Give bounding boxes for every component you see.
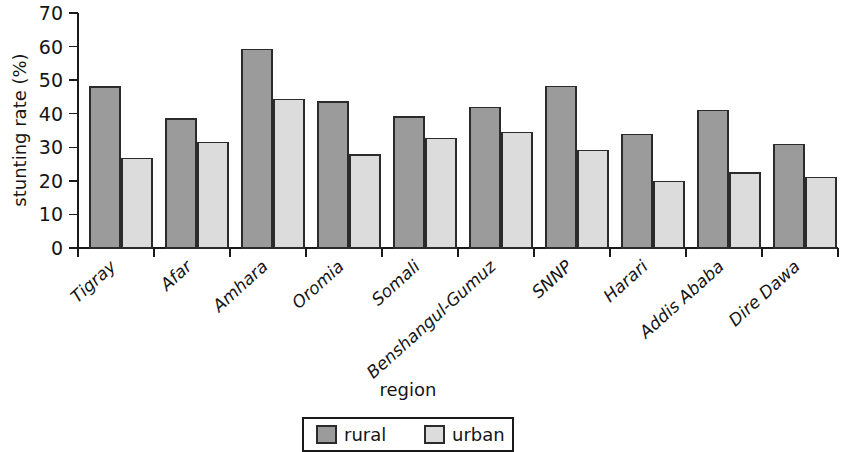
x-axis-title: region [380,379,437,400]
bars-group [90,49,836,248]
legend-swatch-urban [425,426,444,443]
bar-rural-benshangul-gumuz [470,108,500,248]
y-tick-group: 010203040506070 [39,2,78,259]
x-category-label: Amhara [208,256,272,316]
bar-urban-dire-dawa [806,178,836,249]
category-label-group: TigrayAfarAmharaOromiaSomaliBenshangul-G… [67,255,804,382]
x-category-label: Benshangul-Gumuz [363,255,501,382]
x-category-label: Tigray [67,255,121,306]
y-tick-label: 20 [39,170,63,192]
bar-rural-somali [394,117,424,248]
y-tick-label: 70 [39,2,63,24]
bar-urban-snnp [578,150,608,248]
chart-legend: ruralurban [303,418,513,451]
x-category-label: Afar [156,255,197,295]
bar-urban-somali [426,138,456,248]
x-category-label: Somali [367,256,423,310]
y-tick-label: 60 [39,36,63,58]
bar-urban-harari [654,182,684,248]
bar-rural-tigray [90,87,120,248]
y-axis-title: stunting rate (%) [9,53,30,206]
x-tick-group [78,248,838,257]
x-category-label: SNNP [528,256,576,302]
bar-rural-amhara [242,49,272,248]
y-tick-label: 10 [39,203,63,225]
y-axis-group: 010203040506070 stunting rate (%) [9,2,78,259]
bar-rural-afar [166,119,196,248]
bar-urban-tigray [122,159,152,248]
y-tick-label: 50 [39,69,63,91]
bar-rural-harari [622,135,652,248]
bar-urban-afar [198,142,228,248]
bar-urban-benshangul-gumuz [502,133,532,248]
x-axis-group: TigrayAfarAmharaOromiaSomaliBenshangul-G… [67,248,838,400]
legend-label-rural: rural [344,424,386,445]
bar-rural-oromia [318,102,348,248]
bar-rural-dire-dawa [774,145,804,248]
x-category-label: Harari [599,256,651,306]
legend-swatch-rural [317,426,336,443]
y-tick-label: 0 [51,237,63,259]
y-tick-label: 30 [39,136,63,158]
bar-rural-addis-ababa [698,110,728,248]
bar-urban-addis-ababa [730,173,760,248]
legend-label-urban: urban [452,424,505,445]
x-category-label: Oromia [288,256,348,313]
y-tick-label: 40 [39,103,63,125]
bar-urban-oromia [350,155,380,248]
chart-canvas: 010203040506070 stunting rate (%) Tigray… [0,0,841,452]
bar-rural-snnp [546,86,576,248]
x-category-label: Dire Dawa [725,256,804,330]
stunting-rate-bar-chart: 010203040506070 stunting rate (%) Tigray… [0,0,841,452]
bar-urban-amhara [274,100,304,248]
